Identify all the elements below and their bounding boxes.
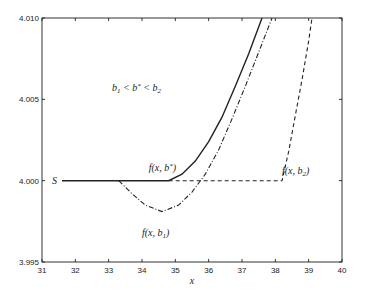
x-tick-label: 40 bbox=[338, 266, 347, 275]
x-tick-label: 37 bbox=[238, 266, 247, 275]
y-tick-label: 4.005 bbox=[19, 95, 40, 104]
series-group bbox=[62, 18, 312, 212]
y-tick-label: 4.000 bbox=[19, 177, 40, 186]
x-tick-label: 33 bbox=[104, 266, 113, 275]
axes: 313233343536373839403.9954.0004.0054.010… bbox=[19, 14, 347, 286]
label-f-bstar: f(x, b*) bbox=[149, 162, 177, 174]
series-line-2 bbox=[169, 18, 312, 181]
series-line-1 bbox=[119, 18, 272, 212]
y-tick-label: 4.010 bbox=[19, 14, 40, 23]
x-tick-label: 38 bbox=[271, 266, 280, 275]
x-tick-label: 31 bbox=[38, 266, 47, 275]
x-tick-label: 39 bbox=[304, 266, 313, 275]
plot-frame bbox=[42, 18, 342, 262]
y-tick-label: 3.995 bbox=[19, 258, 40, 267]
x-tick-label: 36 bbox=[204, 266, 213, 275]
x-tick-label: 32 bbox=[71, 266, 80, 275]
label-f-b2: f(x, b2) bbox=[282, 165, 310, 178]
series-line-0 bbox=[62, 18, 262, 181]
annotation-S: S bbox=[52, 175, 57, 186]
annotations: S b1 < b* < b2 f(x, b*) f(x, b2) f(x, b1… bbox=[52, 82, 310, 240]
x-tick-label: 34 bbox=[138, 266, 147, 275]
x-axis-label: x bbox=[189, 275, 195, 286]
x-tick-label: 35 bbox=[171, 266, 180, 275]
annotation-inequality: b1 < b* < b2 bbox=[112, 82, 162, 95]
label-f-b1: f(x, b1) bbox=[142, 227, 170, 240]
chart: 313233343536373839403.9954.0004.0054.010… bbox=[0, 0, 367, 295]
